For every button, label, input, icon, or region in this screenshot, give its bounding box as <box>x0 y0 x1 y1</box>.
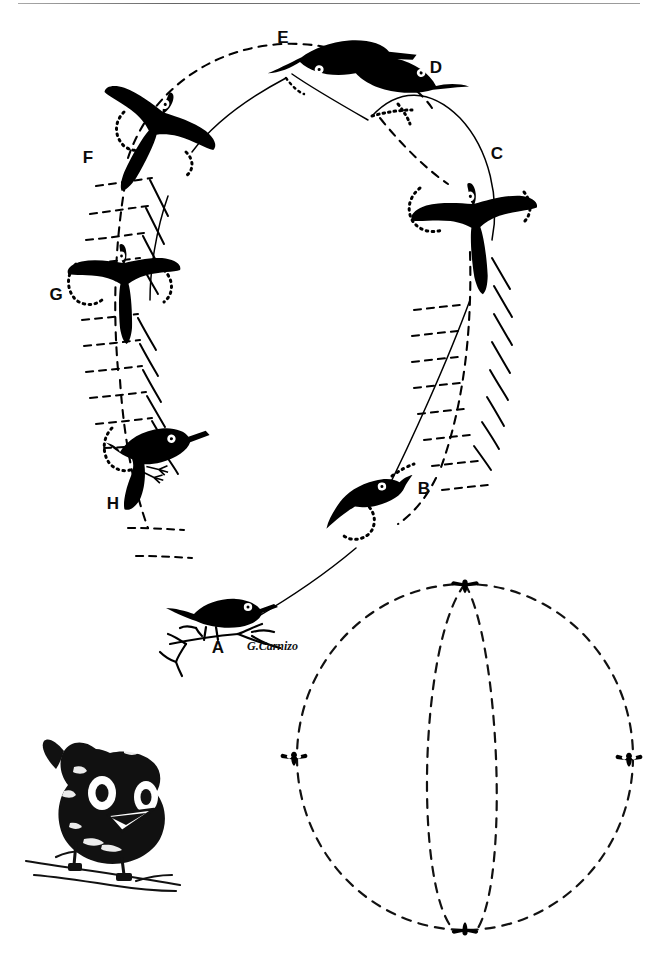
stage-label-d: D <box>430 58 442 77</box>
sphere-marker-left <box>281 752 308 766</box>
stage-label-f: F <box>83 148 93 167</box>
sphere-marker-right <box>616 753 643 767</box>
stage-label-e: E <box>277 28 288 47</box>
wingbeat-marks-right <box>412 258 512 490</box>
stage-label-c: C <box>491 144 503 163</box>
bird-stage-g <box>67 242 183 346</box>
bird-stage-f <box>67 65 228 220</box>
sphere-diagram <box>297 584 633 930</box>
stage-label-b: B <box>418 479 430 498</box>
artist-signature: G.Carnizo <box>247 639 298 653</box>
sphere-meridian-2 <box>465 584 497 928</box>
bird-stage-c <box>408 176 545 301</box>
sphere-marker-top <box>451 579 478 593</box>
bird-portrait <box>26 739 180 891</box>
stage-label-a: A <box>212 638 224 657</box>
bird-flight-diagram: G.Carnizo E D C F G H B A <box>0 0 655 957</box>
stage-label-h: H <box>107 494 119 513</box>
bird-stage-d-accents <box>372 104 412 124</box>
stage-label-g: G <box>49 285 62 304</box>
illustration-plate: G.Carnizo E D C F G H B A <box>0 0 655 957</box>
flight-path-solid <box>150 74 495 620</box>
sphere-meridian-1 <box>427 584 465 928</box>
